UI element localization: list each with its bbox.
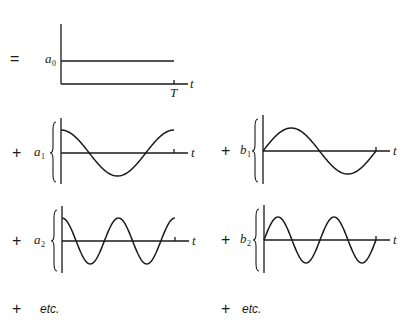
- coef-b2-label: b: [240, 231, 247, 246]
- plus-sign: +: [12, 300, 21, 317]
- brace: [51, 210, 57, 271]
- t-label: t: [393, 232, 397, 247]
- term-a2: +a2t: [12, 206, 196, 273]
- coef-a0-sub: 0: [52, 59, 56, 68]
- term-b2: +b2t: [221, 205, 397, 273]
- t-label: t: [190, 76, 194, 91]
- plus-sign: +: [221, 142, 230, 159]
- plus-sign: +: [12, 232, 21, 249]
- coef-a2-label: a: [34, 232, 41, 247]
- term-a0: = a 0 T t: [10, 24, 194, 100]
- plus-sign: +: [221, 300, 230, 317]
- fourier-diagram: = a 0 T t +a1t+b1t+a2t+b2t + etc. + etc.: [0, 0, 416, 325]
- period-label: T: [170, 85, 178, 100]
- etc-label: etc.: [242, 302, 261, 316]
- etc-label: etc.: [40, 302, 59, 316]
- t-label: t: [393, 143, 397, 158]
- equals-sign: =: [10, 50, 19, 67]
- coef-b2-sub: 2: [247, 239, 251, 248]
- coef-a2-sub: 2: [41, 240, 45, 249]
- coef-a1-sub: 1: [41, 152, 45, 161]
- coef-b1-sub: 1: [247, 150, 251, 159]
- coef-a0-label: a: [45, 51, 52, 66]
- plus-sign: +: [221, 231, 230, 248]
- term-b1: +b1t: [221, 115, 397, 184]
- brace: [252, 119, 258, 182]
- term-a1: +a1t: [12, 118, 195, 184]
- etc-row: + etc. + etc.: [12, 300, 261, 317]
- t-label: t: [192, 233, 196, 248]
- plus-sign: +: [12, 144, 21, 161]
- coef-a1-label: a: [34, 144, 41, 159]
- coef-b1-label: b: [240, 142, 247, 157]
- brace: [50, 122, 56, 182]
- brace: [253, 209, 259, 271]
- t-label: t: [191, 145, 195, 160]
